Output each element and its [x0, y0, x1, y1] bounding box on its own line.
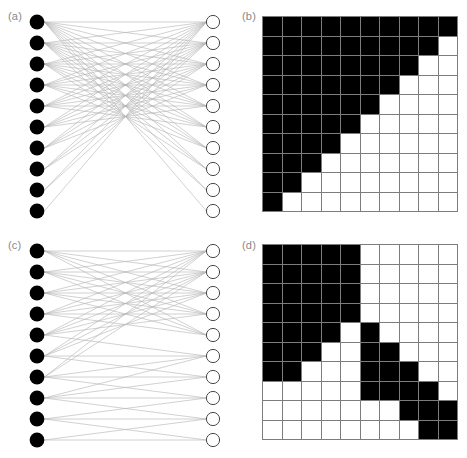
matrix-cell-b-r9c3 — [302, 173, 321, 192]
matrix-cell-b-r7c9 — [419, 134, 438, 153]
matrix-cell-d-r1c4 — [322, 245, 341, 264]
matrix-cell-b-r3c4 — [322, 56, 341, 75]
matrix-cell-d-r5c8 — [400, 323, 419, 342]
matrix-cell-d-r2c2 — [283, 265, 302, 284]
matrix-cell-b-r9c2 — [283, 173, 302, 192]
matrix-cell-d-r8c5 — [341, 382, 360, 401]
matrix-cell-b-r9c4 — [322, 173, 341, 192]
matrix-cell-b-r6c2 — [283, 115, 302, 134]
matrix-cell-b-r7c6 — [361, 134, 380, 153]
matrix-cell-b-r3c5 — [341, 56, 360, 75]
matrix-cell-d-r2c3 — [302, 265, 321, 284]
matrix-cell-b-r7c3 — [302, 134, 321, 153]
matrix-cell-d-r8c9 — [419, 382, 438, 401]
matrix-cell-b-r1c1 — [263, 17, 282, 36]
left-node-6 — [30, 349, 45, 364]
matrix-cell-d-r10c1 — [263, 421, 282, 440]
matrix-cell-d-r2c7 — [380, 265, 399, 284]
matrix-cell-d-r2c1 — [263, 265, 282, 284]
matrix-cell-d-r1c7 — [380, 245, 399, 264]
matrix-cell-d-r5c6 — [361, 323, 380, 342]
left-node-8 — [30, 162, 45, 177]
matrix-cell-d-r4c6 — [361, 304, 380, 323]
matrix-cell-d-r2c10 — [439, 265, 458, 284]
matrix-cell-b-r10c8 — [400, 193, 419, 212]
matrix-cell-d-r4c4 — [322, 304, 341, 323]
matrix-cell-b-r7c8 — [400, 134, 419, 153]
right-node-1 — [206, 244, 219, 257]
matrix-cell-b-r1c4 — [322, 17, 341, 36]
matrix-cell-d-r6c1 — [263, 343, 282, 362]
matrix-cell-d-r9c7 — [380, 401, 399, 420]
left-node-9 — [30, 412, 45, 427]
matrix-cell-b-r6c8 — [400, 115, 419, 134]
matrix-cell-b-r4c4 — [322, 76, 341, 95]
matrix-cell-b-r3c3 — [302, 56, 321, 75]
figure-container: (a) (b) (c) (d) — [0, 0, 467, 458]
modular-interaction-matrix — [262, 244, 458, 440]
matrix-cell-b-r4c5 — [341, 76, 360, 95]
matrix-cell-b-r1c7 — [380, 17, 399, 36]
matrix-cell-d-r9c2 — [283, 401, 302, 420]
matrix-cell-b-r10c7 — [380, 193, 399, 212]
matrix-cell-b-r2c8 — [400, 37, 419, 56]
matrix-cell-d-r5c10 — [439, 323, 458, 342]
matrix-cell-b-r4c1 — [263, 76, 282, 95]
matrix-cell-d-r8c3 — [302, 382, 321, 401]
left-node-9 — [30, 183, 45, 198]
matrix-cell-b-r4c7 — [380, 76, 399, 95]
matrix-cell-b-r5c9 — [419, 95, 438, 114]
matrix-cell-d-r6c3 — [302, 343, 321, 362]
matrix-cell-d-r10c3 — [302, 421, 321, 440]
matrix-cell-d-r2c4 — [322, 265, 341, 284]
matrix-cell-b-r6c9 — [419, 115, 438, 134]
right-node-5 — [206, 99, 219, 112]
left-node-2 — [30, 265, 45, 280]
matrix-cell-b-r6c3 — [302, 115, 321, 134]
matrix-cell-d-r6c6 — [361, 343, 380, 362]
matrix-cell-b-r2c1 — [263, 37, 282, 56]
matrix-cell-d-r3c9 — [419, 284, 438, 303]
matrix-cell-b-r7c4 — [322, 134, 341, 153]
matrix-cell-d-r7c10 — [439, 362, 458, 381]
matrix-cell-b-r9c9 — [419, 173, 438, 192]
modular-bipartite-graph — [0, 229, 234, 458]
matrix-cell-d-r7c1 — [263, 362, 282, 381]
matrix-cell-d-r10c10 — [439, 421, 458, 440]
matrix-cell-b-r1c5 — [341, 17, 360, 36]
matrix-cell-d-r1c5 — [341, 245, 360, 264]
matrix-cell-d-r3c5 — [341, 284, 360, 303]
right-node-8 — [206, 162, 219, 175]
right-node-6 — [206, 120, 219, 133]
matrix-cell-b-r4c2 — [283, 76, 302, 95]
matrix-cell-b-r3c9 — [419, 56, 438, 75]
matrix-cell-d-r4c1 — [263, 304, 282, 323]
panel-b-nested-matrix: (b) — [234, 0, 467, 229]
matrix-cell-b-r2c2 — [283, 37, 302, 56]
matrix-cell-d-r6c8 — [400, 343, 419, 362]
matrix-cell-b-r6c7 — [380, 115, 399, 134]
matrix-cell-b-r5c2 — [283, 95, 302, 114]
right-node-3 — [206, 57, 219, 70]
nested-matrix-wrapper — [262, 16, 458, 212]
matrix-cell-d-r8c4 — [322, 382, 341, 401]
left-node-10 — [30, 204, 45, 219]
left-node-5 — [30, 99, 45, 114]
matrix-cell-d-r4c7 — [380, 304, 399, 323]
matrix-cell-b-r7c2 — [283, 134, 302, 153]
matrix-cell-d-r3c4 — [322, 284, 341, 303]
matrix-cell-d-r3c10 — [439, 284, 458, 303]
matrix-cell-b-r3c7 — [380, 56, 399, 75]
matrix-cell-b-r2c9 — [419, 37, 438, 56]
matrix-cell-d-r5c9 — [419, 323, 438, 342]
matrix-cell-b-r10c2 — [283, 193, 302, 212]
left-node-3 — [30, 286, 45, 301]
graph-edge — [44, 272, 206, 377]
matrix-cell-b-r10c5 — [341, 193, 360, 212]
matrix-cell-b-r8c3 — [302, 154, 321, 173]
matrix-cell-d-r3c1 — [263, 284, 282, 303]
matrix-cell-b-r7c5 — [341, 134, 360, 153]
graph-edge — [44, 251, 206, 356]
matrix-cell-b-r5c8 — [400, 95, 419, 114]
nested-interaction-matrix — [262, 16, 458, 212]
